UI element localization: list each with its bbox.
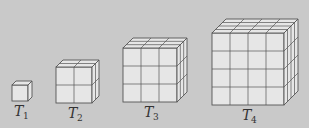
top-face	[123, 38, 187, 48]
cube-label-subscript: 3	[153, 112, 159, 122]
cube-label-subscript: 2	[77, 113, 83, 123]
cube-t1	[12, 81, 32, 101]
cube-label-subscript: 1	[23, 111, 29, 121]
front-face	[123, 48, 177, 102]
cube-sequence-figure: T1T2T3T4	[0, 0, 309, 128]
cube-t3	[123, 38, 187, 102]
cube-t4	[212, 19, 298, 105]
side-face	[177, 38, 187, 102]
cube-t2	[56, 60, 99, 103]
cube-label-subscript: 4	[251, 115, 257, 125]
side-face	[28, 81, 32, 101]
front-face	[12, 85, 28, 101]
